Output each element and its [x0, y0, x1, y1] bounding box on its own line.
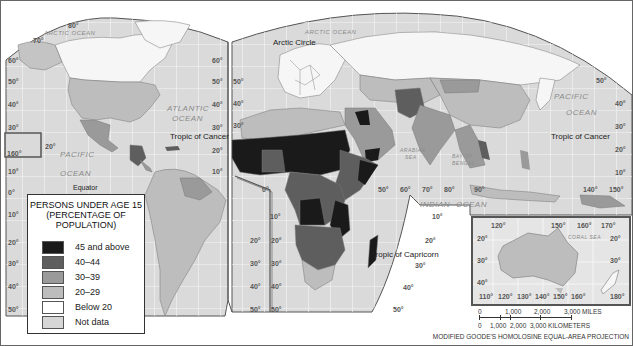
lat-label: 20°	[271, 237, 282, 244]
lon-label: 140°	[583, 186, 597, 193]
lat-label: 0°	[262, 186, 269, 193]
lat-label: 60°	[8, 57, 19, 64]
tropic-of-cancer-right: Tropic of Cancer	[551, 132, 610, 141]
scale-bar	[479, 317, 572, 318]
lon-label: 120°	[491, 222, 505, 229]
lon-label: 50°	[378, 186, 389, 193]
lon-label: 130°	[517, 293, 531, 300]
scale-miles-0: 0	[478, 308, 482, 315]
legend-label: 30–39	[75, 272, 100, 282]
lat-label: 30°	[271, 260, 282, 267]
arctic-ocean-label-left: ARCTIC OCEAN	[44, 30, 95, 36]
legend-item-40-44: 40–44	[42, 256, 142, 270]
lat-label: 50°	[250, 306, 261, 313]
lon-label: 80°	[444, 186, 455, 193]
lat-label: 30°	[477, 257, 488, 264]
lon-label: 70°	[33, 37, 44, 44]
arctic-ocean-label-right: ARCTIC OCEAN	[305, 29, 356, 35]
swatch	[42, 241, 64, 254]
lon-label: 120°	[498, 293, 512, 300]
australia	[498, 228, 578, 286]
lat-label: 40°	[250, 283, 261, 290]
lon-label: 150°	[609, 186, 623, 193]
lon-label: 70°	[422, 186, 433, 193]
lon-label: 80°	[68, 22, 79, 29]
lat-label: 10°	[432, 213, 443, 220]
lat-label: 10°	[615, 169, 626, 176]
lat-label: 50°	[212, 78, 223, 85]
lat-label: 50°	[8, 78, 19, 85]
lat-label: 20°	[477, 235, 488, 242]
legend-title: PERSONS UNDER AGE 15 (PERCENTAGE OF POPU…	[28, 200, 144, 230]
legend-item-30-39: 30–39	[42, 271, 142, 285]
lat-label: 40°	[477, 279, 488, 286]
lat-label: 30°	[615, 123, 626, 130]
lat-label: 30°	[212, 124, 223, 131]
lat-label: 50°	[8, 306, 19, 313]
projection-label: MODIFIED GOODE'S HOMOLOSINE EQUAL-AREA P…	[433, 333, 629, 340]
lat-label: 30°	[8, 260, 19, 267]
lat-label: 40°	[8, 283, 19, 290]
lon-label: 140°	[535, 293, 549, 300]
lat-label: 10°	[8, 168, 19, 175]
legend-label: Not data	[75, 317, 109, 327]
legend-label: 40–44	[75, 257, 100, 267]
pacific-ocean-label-left-2: OCEAN	[60, 169, 91, 178]
equator-label: Equator	[73, 184, 98, 191]
legend-title-line: (PERCENTAGE OF	[28, 210, 144, 220]
lat-label: 20°	[8, 239, 19, 246]
lon-label: 90°	[474, 186, 485, 193]
lat-label: 60°	[212, 57, 223, 64]
lat-label: 40°	[233, 100, 244, 107]
scale-km-1000: 1,000	[490, 322, 506, 329]
lon-label: 160°	[577, 222, 591, 229]
lat-label: 50°	[233, 78, 244, 85]
lat-label: 40°	[271, 283, 282, 290]
scale-km-2000: 2,000	[510, 322, 526, 329]
arabian-sea-label-2: SEA	[405, 154, 417, 160]
lat-label: 30°	[233, 122, 244, 129]
lon-label: 180°	[610, 293, 624, 300]
scale-km-3000: 3,000 KILOMETERS	[530, 322, 590, 329]
new-zealand	[601, 270, 619, 294]
atlantic-ocean-label-2: OCEAN	[172, 114, 203, 123]
australia-map	[473, 218, 629, 304]
legend-item-not-data: Not data	[42, 316, 142, 330]
swatch	[42, 271, 64, 284]
lat-label: 40°	[403, 284, 414, 291]
lat-label: 30°	[8, 124, 19, 131]
lon-label: 60°	[400, 186, 411, 193]
indian-ocean-label-2: OCEAN	[456, 200, 487, 209]
lon-label: 150°	[551, 222, 565, 229]
lat-label: 50°	[393, 306, 404, 313]
lon-label: 150°	[553, 293, 567, 300]
arctic-circle-label: Arctic Circle	[273, 38, 316, 47]
australia-inset: 120° 150° 160° 170° CORAL SEA 20° 30° 40…	[471, 216, 631, 306]
bay-of-bengal-label-1: BAY OF	[452, 153, 473, 159]
legend: PERSONS UNDER AGE 15 (PERCENTAGE OF POPU…	[27, 194, 145, 334]
lat-label: 40°	[8, 101, 19, 108]
swatch	[42, 286, 64, 299]
legend-item-20-29: 20–29	[42, 286, 142, 300]
scale-tick	[540, 315, 541, 320]
pacific-ocean-label-right-2: OCEAN	[566, 108, 597, 117]
lat-label: 50°	[596, 77, 607, 84]
lat-label: 10°	[212, 168, 223, 175]
arabian-sea-label-1: ARABIAN	[400, 147, 425, 153]
scale-miles-2000: 2,000	[534, 308, 550, 315]
bay-of-bengal-label-2: BENGAL	[452, 160, 475, 166]
lat-label: 0°	[8, 189, 15, 196]
lon-label-160: 160°	[7, 150, 21, 157]
scale-km-0: 0	[478, 322, 482, 329]
scale-miles-1000: 1,000	[505, 308, 521, 315]
lon-label: 160°	[571, 293, 585, 300]
lat-label: 40°	[212, 101, 223, 108]
legend-title-line: POPULATION)	[28, 220, 144, 230]
scale-tick	[500, 315, 501, 320]
swatch	[42, 316, 64, 329]
lat-label: 10°	[8, 211, 19, 218]
coral-sea-label: CORAL SEA	[568, 234, 601, 240]
swatch	[42, 256, 64, 269]
lat-label-20: 20°	[45, 143, 56, 150]
legend-item-45-above: 45 and above	[42, 241, 142, 255]
